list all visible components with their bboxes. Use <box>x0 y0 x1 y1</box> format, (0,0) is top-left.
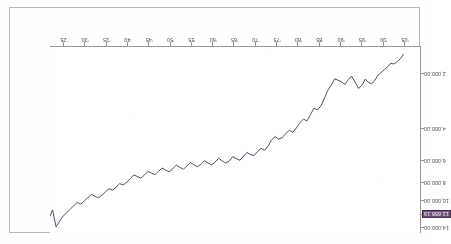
x-axis-label: '30 <box>82 37 89 43</box>
price-series-line <box>50 47 420 233</box>
x-axis-label: '90 <box>337 37 344 43</box>
x-axis-label: '25 <box>60 37 67 43</box>
x-axis-label: '95 <box>359 37 366 43</box>
y-axis-label: 4,000.00 <box>424 126 446 132</box>
y-axis-value-callout[interactable]: 12,658.19 <box>422 210 451 218</box>
x-axis-label: '75 <box>273 37 280 43</box>
x-axis-label: '05 <box>401 37 408 43</box>
x-axis-label: '65 <box>231 37 238 43</box>
x-axis-label: '40 <box>124 37 131 43</box>
y-axis-label: 8,000.00 <box>424 180 446 186</box>
x-axis-label: '50 <box>167 37 174 43</box>
x-axis-label: '00 <box>380 37 387 43</box>
plot-area <box>50 47 420 233</box>
x-axis-label: '80 <box>295 37 302 43</box>
x-axis-label: '55 <box>188 37 195 43</box>
x-axis-label: '35 <box>103 37 110 43</box>
y-axis-label: 6,000.00 <box>424 158 446 164</box>
plot-frame <box>50 46 421 233</box>
y-axis-label: 10,000.00 <box>424 198 449 204</box>
x-axis-label: '85 <box>316 37 323 43</box>
x-axis-label: '60 <box>210 37 217 43</box>
chart-figure: 2,000.004,000.006,000.008,000.0010,000.0… <box>50 25 421 233</box>
y-axis-label: 2,000.00 <box>424 71 446 77</box>
y-axis-label: 14,000.00 <box>424 225 449 231</box>
x-axis-label: '45 <box>146 37 153 43</box>
x-axis-label: '70 <box>252 37 259 43</box>
